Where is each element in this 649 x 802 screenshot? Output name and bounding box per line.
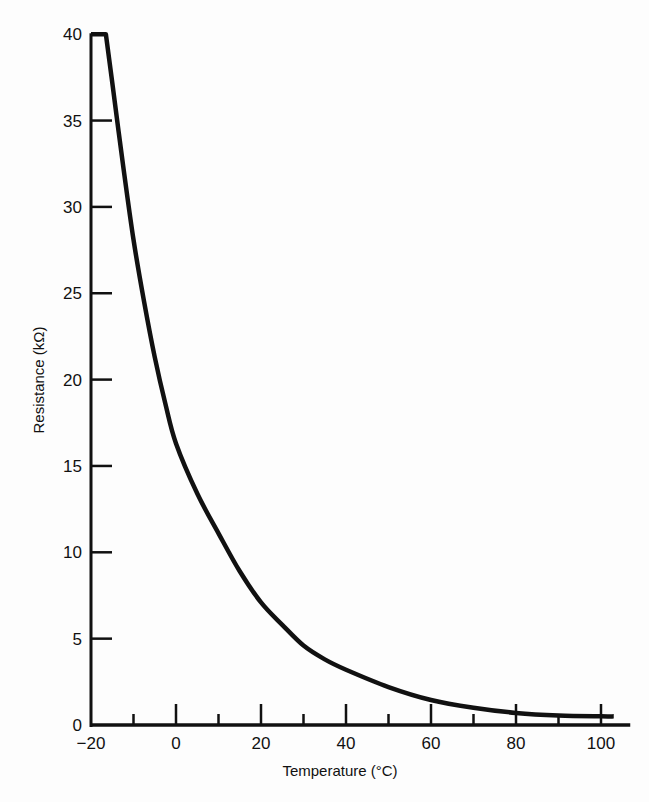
resistance-curve — [91, 34, 614, 716]
y-tick-label: 35 — [63, 112, 82, 131]
y-tick-label: 15 — [63, 457, 82, 476]
y-axis: 0510152025303540 — [63, 25, 112, 735]
x-tick-label: 40 — [337, 734, 356, 753]
x-tick-label: 80 — [507, 734, 526, 753]
x-tick-label: −20 — [77, 734, 106, 753]
x-tick-label: 60 — [422, 734, 441, 753]
y-tick-label: 10 — [63, 543, 82, 562]
thermistor-chart: 0510152025303540 −20020406080100 Tempera… — [0, 0, 649, 802]
x-tick-label: 100 — [587, 734, 615, 753]
x-tick-label: 0 — [171, 734, 180, 753]
y-tick-label: 30 — [63, 198, 82, 217]
y-tick-label: 20 — [63, 371, 82, 390]
x-axis-title: Temperature (°C) — [282, 762, 397, 779]
y-tick-label: 5 — [73, 630, 82, 649]
x-axis: −20020406080100 — [77, 704, 631, 753]
y-tick-label: 40 — [63, 25, 82, 44]
y-tick-label: 25 — [63, 284, 82, 303]
y-tick-label: 0 — [73, 716, 82, 735]
x-tick-label: 20 — [252, 734, 271, 753]
y-axis-title: Resistance (kΩ) — [30, 326, 47, 433]
